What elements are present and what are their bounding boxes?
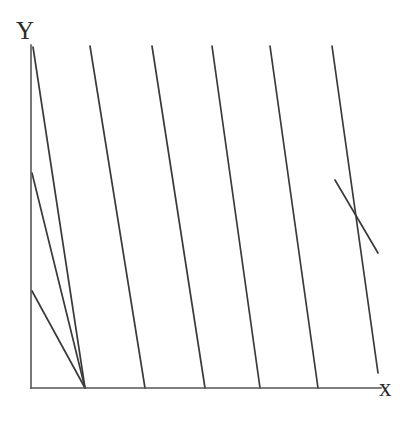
diagonal-line-6: [212, 46, 260, 388]
diagonal-line-9: [335, 180, 378, 253]
figure-root: Y x: [0, 0, 420, 422]
y-axis-label: Y: [16, 18, 34, 43]
diagonal-line-7: [270, 46, 318, 388]
diagonal-line-2: [32, 173, 85, 388]
diagonal-line-1: [33, 47, 85, 388]
diagonal-lines-group: [32, 46, 378, 388]
diagonal-line-8: [332, 46, 378, 373]
figure-canvas: [0, 0, 420, 422]
axes-group: [31, 45, 381, 388]
x-axis-label: x: [379, 375, 392, 400]
diagonal-line-4: [90, 46, 145, 388]
diagonal-line-5: [152, 46, 205, 388]
